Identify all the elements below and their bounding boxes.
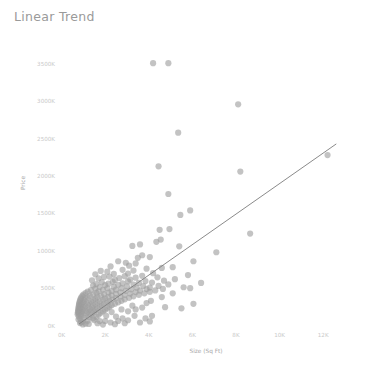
data-point bbox=[147, 254, 153, 260]
data-point bbox=[125, 308, 131, 314]
data-point bbox=[118, 306, 124, 312]
data-point bbox=[178, 305, 184, 311]
data-point bbox=[98, 268, 104, 274]
x-tick-label: 8K bbox=[232, 332, 240, 338]
data-point bbox=[165, 281, 171, 287]
data-point bbox=[176, 243, 182, 249]
data-point bbox=[187, 285, 193, 291]
y-tick-label: 1500K bbox=[37, 210, 55, 216]
data-point bbox=[175, 130, 181, 136]
data-point bbox=[90, 315, 96, 321]
data-point bbox=[198, 280, 204, 286]
data-point bbox=[154, 274, 160, 280]
x-tick-label: 6K bbox=[189, 332, 197, 338]
x-tick-label: 2K bbox=[101, 332, 109, 338]
y-tick-label: 2000K bbox=[37, 173, 55, 179]
data-point bbox=[165, 191, 171, 197]
data-point bbox=[177, 212, 183, 218]
data-point bbox=[103, 313, 109, 319]
y-axis-tick-labels: 0K500K1000K1500K2000K2500K3000K3500K bbox=[37, 61, 55, 329]
x-tick-label: 4K bbox=[145, 332, 153, 338]
data-point bbox=[159, 294, 165, 300]
x-tick-label: 12K bbox=[318, 332, 329, 338]
data-point bbox=[112, 321, 118, 327]
y-tick-label: 0K bbox=[48, 323, 56, 329]
data-point bbox=[187, 207, 193, 213]
data-point bbox=[135, 255, 141, 261]
x-axis-tick-labels: 0K2K4K6K8K10K12K bbox=[58, 332, 329, 338]
data-point bbox=[131, 313, 137, 319]
data-point bbox=[185, 272, 191, 278]
data-point bbox=[133, 275, 139, 281]
data-point bbox=[100, 322, 106, 328]
data-point bbox=[129, 303, 135, 309]
data-point bbox=[129, 243, 135, 249]
x-tick-label: 0K bbox=[58, 332, 66, 338]
data-point bbox=[137, 241, 143, 247]
data-point bbox=[122, 273, 128, 279]
trend-line bbox=[79, 144, 336, 324]
y-tick-label: 3000K bbox=[37, 98, 55, 104]
data-point bbox=[119, 267, 125, 273]
data-point bbox=[166, 226, 172, 232]
data-point bbox=[115, 258, 121, 264]
data-point bbox=[126, 263, 132, 269]
data-point bbox=[157, 227, 163, 233]
data-point bbox=[150, 60, 156, 66]
data-point bbox=[155, 163, 161, 169]
y-tick-label: 2500K bbox=[37, 136, 55, 142]
data-point bbox=[130, 267, 136, 273]
data-point bbox=[172, 276, 178, 282]
scatter-points bbox=[75, 60, 331, 328]
data-point bbox=[147, 318, 153, 324]
data-point bbox=[80, 321, 86, 327]
y-tick-label: 3500K bbox=[37, 61, 55, 67]
data-point bbox=[139, 304, 145, 310]
data-point bbox=[109, 309, 115, 315]
data-point bbox=[149, 313, 155, 319]
data-point bbox=[181, 284, 187, 290]
data-point bbox=[94, 320, 100, 326]
scatter-plot: 0K2K4K6K8K10K12K 0K500K1000K1500K2000K25… bbox=[0, 0, 367, 385]
chart-screenshot: Linear Trend 0K2K4K6K8K10K12K 0K500K1000… bbox=[0, 0, 367, 385]
data-point bbox=[122, 320, 128, 326]
data-point bbox=[162, 304, 168, 310]
data-point bbox=[153, 239, 159, 245]
data-point bbox=[247, 230, 253, 236]
data-point bbox=[86, 321, 92, 327]
y-tick-label: 1000K bbox=[37, 248, 55, 254]
data-point bbox=[107, 263, 113, 269]
data-point bbox=[170, 264, 176, 270]
data-point bbox=[170, 290, 176, 296]
x-axis-title: Size (Sq Ft) bbox=[189, 348, 222, 355]
data-point bbox=[213, 249, 219, 255]
y-tick-label: 500K bbox=[41, 285, 56, 291]
data-point bbox=[136, 292, 142, 298]
data-point bbox=[143, 300, 149, 306]
y-axis-title: Price bbox=[20, 176, 26, 191]
data-point bbox=[324, 152, 330, 158]
data-point bbox=[106, 273, 112, 279]
data-point bbox=[237, 168, 243, 174]
data-point bbox=[141, 290, 147, 296]
data-point bbox=[143, 266, 149, 272]
data-point bbox=[165, 60, 171, 66]
data-point bbox=[152, 287, 158, 293]
x-tick-label: 10K bbox=[274, 332, 285, 338]
data-point bbox=[190, 258, 196, 264]
data-point bbox=[147, 289, 153, 295]
data-point bbox=[133, 260, 139, 266]
data-point bbox=[160, 286, 166, 292]
data-point bbox=[137, 319, 143, 325]
data-point bbox=[235, 101, 241, 107]
data-point bbox=[190, 301, 196, 307]
